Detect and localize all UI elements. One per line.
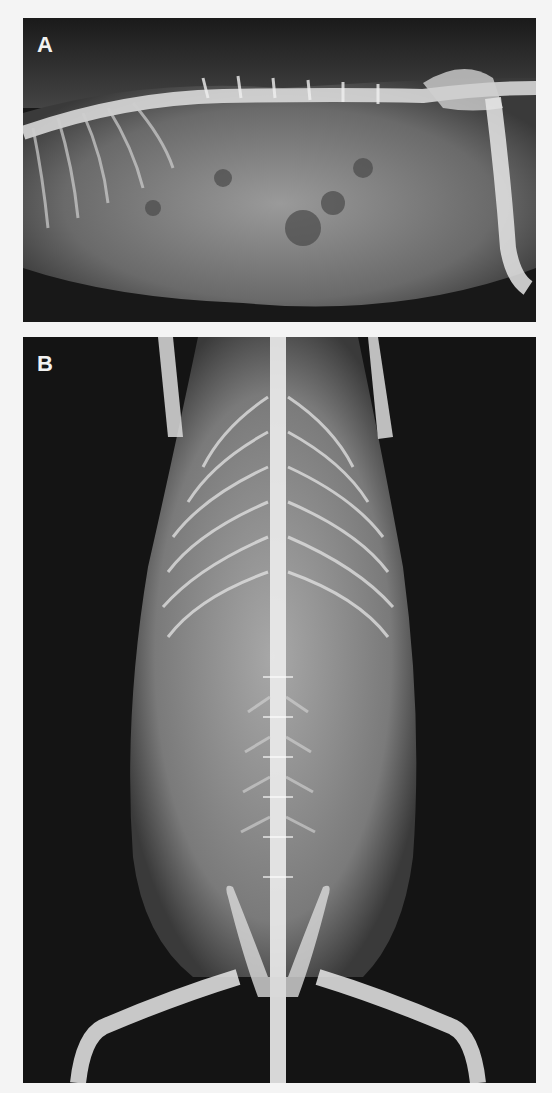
panel-label-a: A bbox=[37, 32, 53, 58]
radiograph-panel-b: B bbox=[23, 337, 536, 1083]
panel-label-b: B bbox=[37, 351, 53, 377]
ventrodorsal-radiograph-image bbox=[23, 337, 536, 1083]
lateral-radiograph-image bbox=[23, 18, 536, 322]
radiograph-panel-a: A bbox=[23, 18, 536, 322]
